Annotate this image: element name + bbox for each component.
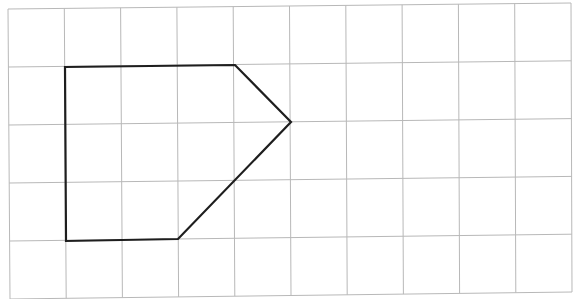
grid-line-vertical (121, 8, 123, 298)
grid-line-vertical (515, 4, 516, 293)
grid-line-vertical (290, 6, 292, 296)
grid-lines (8, 3, 572, 299)
grid-line-vertical (571, 3, 572, 292)
grid-line-vertical (346, 5, 347, 294)
grid-line-vertical (233, 7, 235, 297)
grid-line-vertical (8, 9, 10, 299)
grid-diagram (0, 0, 574, 299)
grid-line-vertical (402, 5, 403, 294)
grid-line-vertical (177, 7, 179, 297)
grid-canvas (0, 0, 574, 299)
grid-line-vertical (458, 4, 459, 293)
